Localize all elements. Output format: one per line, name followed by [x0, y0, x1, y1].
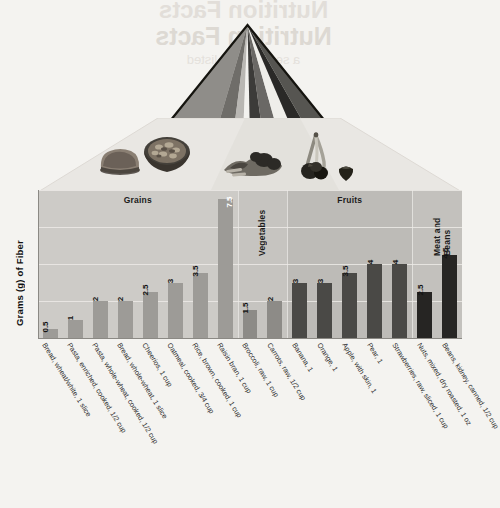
berries-photo: [300, 158, 330, 186]
bar-value-label: 0.5: [41, 321, 50, 332]
bar: 2: [118, 301, 133, 338]
bar-value-label: 4.5: [441, 247, 450, 258]
bar: 3.5: [193, 273, 208, 338]
bread-slice-photo: [98, 146, 142, 180]
bar-value-label: 1.5: [241, 303, 250, 314]
y-axis-title: Grams (g) of Fiber: [14, 196, 28, 326]
fiber-bar-chart: GrainsVegetablesFruitsMeat and Beans0.51…: [38, 190, 462, 338]
section-title-vegetables: Vegetables: [257, 196, 267, 256]
bar: 3: [168, 283, 183, 339]
bar: 3: [317, 283, 332, 339]
x-tick-label: Orange, 1: [315, 341, 340, 373]
bar-value-label: 7.5: [225, 197, 234, 208]
x-axis-line: [38, 338, 462, 339]
bar: 2: [93, 301, 108, 338]
bar: 2.5: [417, 292, 432, 338]
bar: 2: [267, 301, 282, 338]
cereal-bowl-photo: [143, 132, 191, 180]
x-tick-label: Pear, 1: [365, 341, 385, 365]
strawberry-photo: [336, 162, 356, 186]
bar-value-label: 2.5: [416, 284, 425, 295]
bar-value-label: 2: [266, 297, 275, 301]
bar-value-label: 2: [91, 297, 100, 301]
gridline-6: [38, 227, 462, 228]
bar: 0.5: [43, 329, 58, 338]
bar: 1.5: [243, 310, 258, 338]
gridline-8: [38, 190, 462, 191]
plot-area: GrainsVegetablesFruitsMeat and Beans0.51…: [38, 190, 462, 338]
bar: 3.5: [342, 273, 357, 338]
section-title-grains: Grains: [38, 195, 238, 205]
x-axis-tick-labels: Bread, wheat/white, 1 slicePasta, enrich…: [38, 341, 478, 506]
bar: 7.5: [218, 199, 233, 338]
vegetables-photo: [222, 140, 288, 184]
bar-value-label: 1: [66, 315, 75, 319]
bar-value-label: 2.5: [141, 284, 150, 295]
bar-value-label: 3.5: [341, 266, 350, 277]
bar: 2.5: [143, 292, 158, 338]
bar: 4: [367, 264, 382, 338]
x-tick-label: Banana, 1: [290, 341, 315, 374]
bleed-line-1: Nutrition Facts: [0, 0, 487, 24]
bar-value-label: 3: [316, 278, 325, 282]
bar-value-label: 3.5: [191, 266, 200, 277]
bar-value-label: 3: [291, 278, 300, 282]
bar-value-label: 3: [166, 278, 175, 282]
y-axis-line: [38, 190, 39, 338]
bar: 4.5: [442, 255, 457, 338]
bar: 3: [292, 283, 307, 339]
food-shelf-perspective: [0, 118, 487, 193]
bar: 4: [392, 264, 407, 338]
x-tick-label: Oatmeal, cooked, 3/4 cup: [166, 341, 217, 415]
bar-value-label: 4: [391, 260, 400, 264]
bar-value-label: 2: [116, 297, 125, 301]
section-title-fruits: Fruits: [287, 195, 412, 205]
bar: 1: [68, 320, 83, 339]
bar-value-label: 4: [366, 260, 375, 264]
